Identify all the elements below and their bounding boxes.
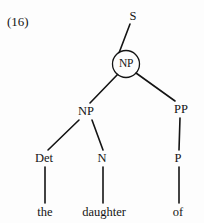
tree-terminal-of: of (173, 206, 183, 219)
tree-node-np-top: NP (119, 58, 133, 70)
tree-edge-np-lower-to-n (92, 120, 103, 150)
tree-node-np-lower: NP (78, 105, 94, 118)
tree-terminal-the: the (37, 206, 52, 219)
tree-node-p: P (175, 152, 182, 165)
tree-node-s: S (130, 10, 137, 23)
tree-edge-np-lower-to-det (48, 120, 79, 150)
tree-edge-np-top-to-np-lower (90, 74, 118, 103)
tree-node-n: N (97, 152, 106, 165)
tree-edge-layer (45, 24, 180, 203)
tree-node-det: Det (35, 152, 53, 165)
figure-canvas: (16) SNPNPPPDetNPthedaughterof (0, 0, 204, 223)
tree-edge-s-to-np-top (119, 24, 130, 53)
tree-edge-np-top-to-pp (136, 73, 175, 101)
tree-terminal-daughter: daughter (82, 206, 126, 219)
tree-node-pp: PP (174, 103, 188, 116)
tree-edge-pp-to-p (179, 118, 180, 150)
